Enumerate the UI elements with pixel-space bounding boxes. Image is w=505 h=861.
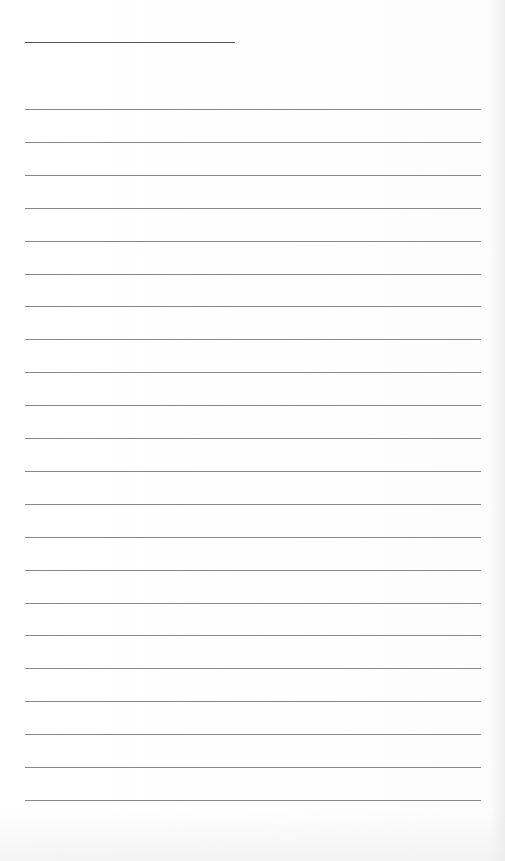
ruled-line: [25, 175, 481, 176]
ruled-line: [25, 241, 481, 242]
header-name-line: [25, 42, 235, 43]
ruled-line: [25, 438, 481, 439]
ruled-line: [25, 537, 481, 538]
ruled-line: [25, 635, 481, 636]
ruled-line: [25, 274, 481, 275]
ruled-line: [25, 734, 481, 735]
ruled-line: [25, 142, 481, 143]
lined-paper-page: [0, 0, 505, 861]
ruled-line: [25, 800, 481, 801]
page-bottom-shade: [0, 811, 505, 861]
ruled-line: [25, 603, 481, 604]
ruled-line: [25, 306, 481, 307]
ruled-line: [25, 767, 481, 768]
ruled-line: [25, 504, 481, 505]
ruled-line: [25, 471, 481, 472]
ruled-line: [25, 405, 481, 406]
ruled-line: [25, 372, 481, 373]
ruled-line: [25, 668, 481, 669]
ruled-line: [25, 570, 481, 571]
ruled-line: [25, 109, 481, 110]
ruled-line: [25, 701, 481, 702]
ruled-line: [25, 339, 481, 340]
ruled-line: [25, 208, 481, 209]
